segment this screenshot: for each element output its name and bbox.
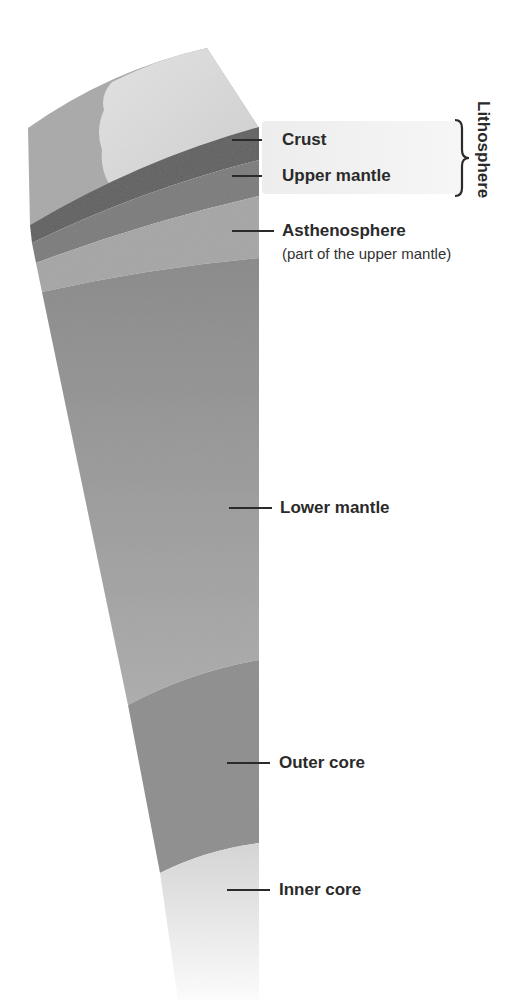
label-upper-mantle: Upper mantle bbox=[282, 167, 391, 185]
layer-inner-core bbox=[160, 843, 259, 1000]
label-asthenosphere-note: (part of the upper mantle) bbox=[282, 246, 451, 262]
label-asthenosphere: Asthenosphere bbox=[282, 222, 406, 240]
brace-icon bbox=[452, 118, 472, 198]
label-outer-core: Outer core bbox=[279, 754, 365, 772]
label-lithosphere: Lithosphere bbox=[474, 101, 492, 198]
label-crust: Crust bbox=[282, 131, 326, 149]
label-inner-core: Inner core bbox=[279, 881, 361, 899]
layer-lower-mantle bbox=[42, 258, 259, 705]
label-lower-mantle: Lower mantle bbox=[280, 499, 390, 517]
